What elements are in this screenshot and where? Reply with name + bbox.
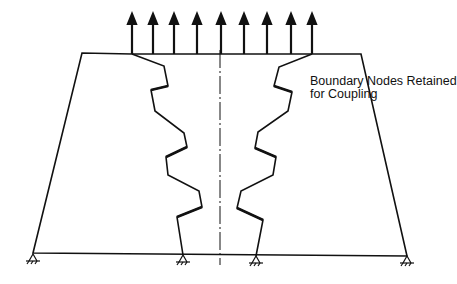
arrow-icon (308, 14, 316, 54)
boundary-nodes-annotation: Boundary Nodes Retained for Coupling (310, 75, 457, 101)
annotation-line-2: for Coupling (310, 88, 457, 101)
arrow-icon (263, 14, 271, 54)
arrow-icon (240, 14, 248, 54)
pin-support-icon (176, 255, 190, 265)
arrow-icon (287, 14, 295, 54)
boundary-node-marks (151, 86, 292, 220)
left-boundary (132, 54, 202, 255)
arrow-icon (128, 14, 136, 54)
arrow-icon (217, 14, 225, 54)
arrow-icon (149, 14, 157, 54)
pin-support-icon (400, 256, 414, 266)
load-arrows (128, 14, 316, 54)
arrow-icon (170, 14, 178, 54)
arrow-icon (193, 14, 201, 54)
pin-support-icon (26, 254, 40, 264)
pin-support-icon (249, 256, 263, 266)
